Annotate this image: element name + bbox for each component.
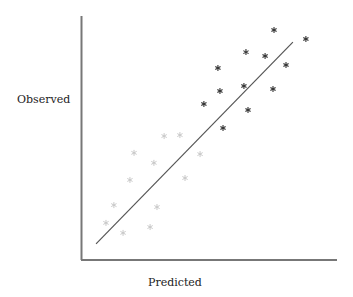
data-point-asterisk xyxy=(201,101,206,107)
data-point-asterisk xyxy=(151,160,156,166)
data-point-asterisk xyxy=(182,175,187,181)
data-point-asterisk xyxy=(177,132,182,138)
data-point-asterisk xyxy=(243,49,248,55)
data-point-asterisk xyxy=(120,230,125,236)
fit-line-segment xyxy=(96,42,293,244)
data-point-asterisk xyxy=(154,204,159,210)
data-point-asterisk xyxy=(197,151,202,157)
data-point-asterisk xyxy=(245,107,250,113)
data-point-asterisk xyxy=(131,150,136,156)
data-point-asterisk xyxy=(241,83,246,89)
data-point-asterisk xyxy=(215,65,220,71)
axes xyxy=(81,16,337,260)
data-point-asterisk xyxy=(270,86,275,92)
x-axis-label: Predicted xyxy=(148,276,202,289)
data-point-asterisk xyxy=(220,125,225,131)
data-point-asterisk xyxy=(162,133,167,139)
y-axis-label: Observed xyxy=(17,93,70,106)
data-point-asterisk xyxy=(147,224,152,230)
data-point-asterisk xyxy=(217,88,222,94)
data-point-asterisk xyxy=(271,27,276,33)
fit-line xyxy=(96,42,293,244)
data-point-asterisk xyxy=(127,177,132,183)
data-point-asterisk xyxy=(111,202,116,208)
data-point-asterisk xyxy=(283,62,288,68)
data-point-asterisk xyxy=(103,220,108,226)
data-point-asterisk xyxy=(262,53,267,59)
scatter-chart xyxy=(0,0,353,297)
data-point-asterisk xyxy=(303,36,308,42)
